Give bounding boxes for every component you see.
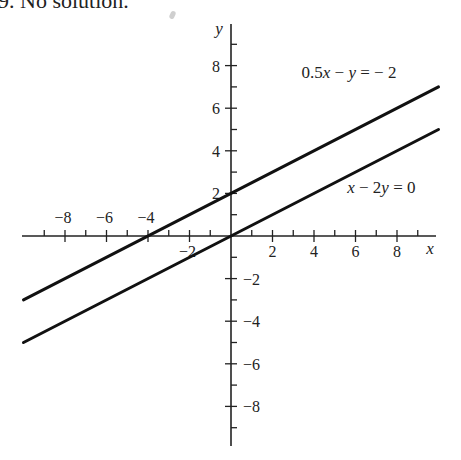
x-tick-label: 6 xyxy=(352,243,360,260)
equation-label: 0.5x − y = − 2 xyxy=(302,63,397,82)
equation-text: − xyxy=(330,63,348,82)
x-tick-label: −6 xyxy=(96,209,113,226)
x-axis-label: x xyxy=(425,239,434,258)
variable: y xyxy=(379,178,389,197)
y-axis-label: y xyxy=(213,19,223,38)
variable: y xyxy=(346,63,356,82)
x-tick-label: −4 xyxy=(137,209,154,226)
y-tick-label: 4 xyxy=(212,143,220,160)
equation-text: = − 2 xyxy=(356,63,396,82)
y-tick-label: −6 xyxy=(243,356,260,373)
y-tick-label: 6 xyxy=(212,100,220,117)
equation-label: x − 2y = 0 xyxy=(346,178,415,197)
coordinate-plane: −8−6−4−224688642−2−4−6−8xy 0.5x − y = − … xyxy=(0,0,461,460)
equation-text: 0.5 xyxy=(302,63,323,82)
x-tick-label: 4 xyxy=(310,243,318,260)
equation-text: = 0 xyxy=(389,178,416,197)
y-tick-label: −2 xyxy=(243,271,260,288)
x-tick-label: −8 xyxy=(54,209,71,226)
series-labels: 0.5x − y = − 2x − 2y = 0 xyxy=(302,63,416,197)
y-tick-label: 8 xyxy=(212,58,220,75)
x-tick-label: 2 xyxy=(269,243,277,260)
x-tick-label: 8 xyxy=(393,243,401,260)
y-tick-label: −4 xyxy=(243,313,260,330)
axes xyxy=(22,24,436,446)
y-tick-label: −8 xyxy=(243,398,260,415)
equation-text: − 2 xyxy=(355,178,382,197)
